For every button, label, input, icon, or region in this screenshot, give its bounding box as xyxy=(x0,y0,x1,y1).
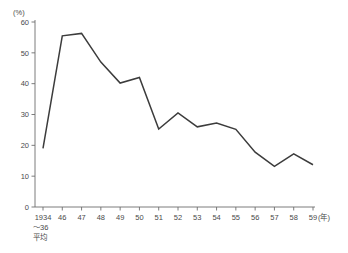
x-tick-label: 48 xyxy=(97,213,105,222)
x-tick-label: 58 xyxy=(290,213,298,222)
x-first-label-line3: 平均 xyxy=(33,232,47,242)
y-tick-label: 0 xyxy=(25,203,29,212)
data-series-group xyxy=(43,33,313,166)
data-line-series xyxy=(43,33,313,166)
chart-canvas: 0102030405060 19344647484950515253545556… xyxy=(0,0,348,253)
x-tick-label: 55 xyxy=(232,213,240,222)
x-tick-label: 54 xyxy=(212,213,220,222)
x-tick-label: 56 xyxy=(251,213,259,222)
x-tick-label: 53 xyxy=(193,213,201,222)
x-first-label-line2: ～36 xyxy=(33,223,48,232)
y-tick-label: 40 xyxy=(21,79,29,88)
x-tick-label: 51 xyxy=(155,213,163,222)
x-tick-label: 52 xyxy=(174,213,182,222)
x-tick-label: 46 xyxy=(58,213,66,222)
x-axis: 19344647484950515253545556575859 xyxy=(35,207,318,222)
y-axis-unit-label: (%) xyxy=(13,8,25,17)
y-tick-label: 50 xyxy=(21,49,29,58)
x-axis-unit-label: (年) xyxy=(318,212,330,222)
x-tick-label: 1934 xyxy=(35,213,52,222)
x-tick-label: 47 xyxy=(77,213,85,222)
line-chart: 0102030405060 19344647484950515253545556… xyxy=(0,0,348,253)
x-tick-label: 59 xyxy=(309,213,317,222)
y-tick-label: 10 xyxy=(21,172,29,181)
x-tick-label: 49 xyxy=(116,213,124,222)
y-tick-label: 20 xyxy=(21,141,29,150)
y-axis: 0102030405060 xyxy=(21,18,35,212)
y-tick-label: 60 xyxy=(21,18,29,27)
y-tick-label: 30 xyxy=(21,110,29,119)
x-tick-label: 57 xyxy=(270,213,278,222)
x-tick-label: 50 xyxy=(135,213,143,222)
